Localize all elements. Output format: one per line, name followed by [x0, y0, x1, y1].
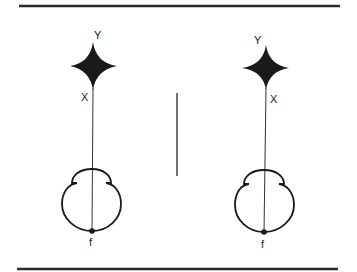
right-star-icon: [242, 45, 289, 90]
left-label-y: Y: [94, 29, 102, 41]
right-stem: [264, 88, 266, 232]
left-label-f: f: [89, 236, 93, 248]
left-label-x: X: [81, 91, 89, 103]
diagram-canvas: Y X f Y X f: [0, 0, 357, 272]
left-base-dot: [89, 228, 95, 234]
left-star-icon: [70, 42, 117, 90]
right-label-x: X: [270, 93, 278, 105]
right-figure: Y X f: [235, 34, 294, 250]
left-stem: [92, 88, 93, 231]
right-label-y: Y: [254, 34, 262, 46]
right-label-f: f: [261, 238, 265, 250]
left-lobed-outline: [62, 169, 121, 231]
right-base-dot: [261, 229, 267, 235]
left-figure: Y X f: [62, 29, 121, 248]
